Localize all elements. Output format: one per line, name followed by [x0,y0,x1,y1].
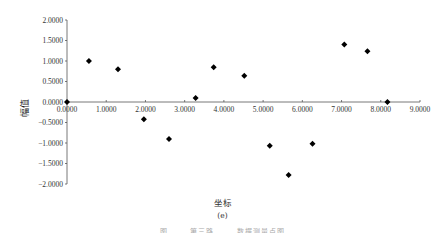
y-tick-label: −1.0000 [38,139,63,148]
x-tick-label: 4.0000 [214,105,235,114]
data-point-diamond-marker [211,64,217,70]
y-tick-label: −2.0000 [38,180,63,189]
data-point-diamond-marker [286,172,292,178]
data-point-diamond-marker [115,66,121,72]
y-tick-label: −0.5000 [38,118,63,127]
data-point-diamond-marker [86,58,92,64]
x-tick-label: 3.0000 [174,105,195,114]
data-point-diamond-marker [241,73,247,79]
data-point-diamond-marker [364,48,370,54]
y-tick-label: 0.5000 [42,77,63,86]
x-tick-label: 5.0000 [253,105,274,114]
x-tick-label: 6.0000 [292,105,313,114]
y-tick-label: 2.0000 [42,16,63,25]
x-tick-label: 1.0000 [96,105,117,114]
data-point-diamond-marker [310,141,316,147]
x-tick-label: 8.0000 [370,105,391,114]
data-point-diamond-marker [141,116,147,122]
subfigure-label: (e) [0,211,445,220]
y-axis-title: 幅值 [19,99,30,117]
data-point-diamond-marker [166,136,172,142]
y-tick-label: 1.0000 [42,57,63,66]
x-tick-label: 9.0000 [410,105,431,114]
x-tick-label: 2.0000 [135,105,156,114]
data-point-diamond-marker [267,143,273,149]
data-point-diamond-marker [341,42,347,48]
data-point-diamond-marker [193,95,199,101]
x-tick-label: 7.0000 [331,105,352,114]
x-axis-title: 坐标 [0,196,445,208]
y-axis-ticks: 2.00001.50001.00000.50000.0000−0.5000−1.… [38,16,67,189]
y-tick-label: −1.5000 [38,159,63,168]
figure-caption-cutoff: 图 …… 第三路 …… 数据测量点图 [0,226,445,233]
y-tick-label: 1.5000 [42,36,63,45]
